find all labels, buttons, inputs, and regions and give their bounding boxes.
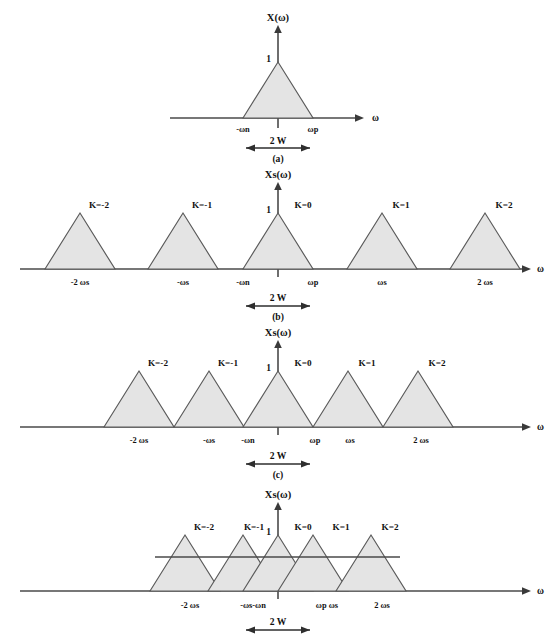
panel-b-horizontal-axis-arrow: [522, 265, 531, 273]
panel-b-k-label-1: K=1: [393, 200, 410, 210]
panel-d-k-label-minus2: K=-2: [194, 522, 214, 532]
panel-b-tick-neg-2ws: -2 ωs: [71, 278, 90, 287]
panel-c-k-label-minus2: K=-2: [148, 358, 168, 368]
panel-b-triangle-k-minus1: [148, 213, 218, 269]
panel-d-vertical-axis-arrow: [274, 502, 282, 510]
panel-d-vertical-axis-label: Xs(ω): [265, 489, 292, 501]
panel-a-triangle-k0: [243, 62, 313, 118]
panel-c-tick-neg-ws: -ωs: [203, 436, 216, 445]
panel-c-triangle-k2: [383, 371, 453, 427]
panel-d-tick-wp-ws: ωp ωs: [316, 601, 339, 610]
panel-a-vertical-axis-label: X(ω): [267, 12, 290, 24]
panel-b-dimension-arrow-right: [301, 302, 310, 309]
panel-c-vertical-axis-label: Xs(ω): [265, 327, 292, 339]
panel-b-k-label-minus2: K=-2: [89, 200, 109, 210]
panel-b-caption: (b): [272, 311, 284, 323]
panel-d-triangle-k-minus2: [150, 535, 220, 591]
panel-d-tick-neg-2ws: -2 ωs: [181, 601, 200, 610]
panel-d-tick-neg-ws-neg-wn: -ωs-ωn: [240, 601, 266, 610]
panel-b-k-label-0: K=0: [295, 200, 312, 210]
panel-c-peak-label: 1: [266, 363, 271, 373]
panel-b-tick-2ws: 2 ωs: [477, 278, 493, 287]
panel-d: Xs(ω) ω 1 K=-2 K=-1 K=0 K=1 K=2 -2 ωs -ω…: [0, 481, 554, 640]
panel-d-horizontal-axis-arrow: [522, 587, 531, 595]
panel-c-tick-wp: ωp: [310, 436, 321, 445]
panel-c-triangle-k0: [243, 371, 313, 427]
panel-b-k-label-2: K=2: [496, 200, 513, 210]
panel-c-horizontal-axis-arrow: [522, 423, 531, 431]
panel-d-dimension-arrow-left: [246, 626, 255, 633]
panel-d-triangle-k2: [336, 535, 406, 591]
panel-b-triangle-k0: [243, 213, 313, 269]
panel-b-vertical-axis-label: Xs(ω): [265, 169, 292, 181]
panel-c-k-label-1: K=1: [359, 358, 376, 368]
panel-c-dimension-arrow-left: [246, 460, 255, 467]
panel-a-dimension-arrow-left: [246, 144, 255, 151]
panel-d-tick-2ws: 2 ωs: [374, 601, 390, 610]
panel-c-tick-neg-2ws: -2 ωs: [130, 436, 149, 445]
panel-d-horizontal-axis-label: ω: [537, 586, 544, 596]
panel-a-horizontal-axis-label: ω: [372, 113, 379, 123]
panel-a: X(ω) ω 1 -ωn ωp 2 W (a): [0, 0, 554, 165]
panel-a-dimension-arrow-right: [301, 144, 310, 151]
panel-c-dimension-label: 2 W: [270, 450, 287, 461]
panel-b-triangle-k1: [347, 213, 417, 269]
panel-d-peak-label: 1: [266, 527, 271, 537]
panel-b-triangle-k-minus2: [45, 213, 115, 269]
panel-d-dimension-label: 2 W: [270, 616, 287, 627]
panel-c-triangle-k-minus2: [104, 371, 174, 427]
panel-a-vertical-axis-arrow: [274, 25, 282, 33]
panel-c: Xs(ω) ω 1 K=-2 K=-1 K=0 K=1 K=2 -2 ωs -ω…: [0, 323, 554, 481]
panel-b: Xs(ω) ω 1 K=-2 K=-1 K=0 K=1 K=2 -2 ωs -ω…: [0, 165, 554, 323]
panel-d-k-label-1: K=1: [333, 522, 350, 532]
panel-c-caption: (c): [273, 469, 284, 481]
panel-c-triangle-k-minus1: [174, 371, 244, 427]
panel-c-vertical-axis-arrow: [274, 340, 282, 348]
panel-b-tick-ws: ωs: [377, 278, 387, 287]
panel-b-tick-wp: ωp: [308, 278, 319, 287]
panel-d-dimension-arrow-right: [301, 626, 310, 633]
panel-b-dimension-label: 2 W: [270, 292, 287, 303]
figure-root: X(ω) ω 1 -ωn ωp 2 W (a) Xs(ω) ω 1 K=-2 K…: [0, 0, 554, 640]
panel-d-k-label-2: K=2: [382, 522, 399, 532]
panel-c-k-label-minus1: K=-1: [218, 358, 238, 368]
panel-b-k-label-minus1: K=-1: [192, 200, 212, 210]
panel-a-tick-neg-wn: -ωn: [236, 125, 250, 134]
panel-a-caption: (a): [272, 153, 283, 165]
panel-d-k-label-0: K=0: [295, 522, 312, 532]
panel-c-k-label-0: K=0: [295, 358, 312, 368]
panel-a-dimension-label: 2 W: [270, 135, 287, 146]
panel-b-tick-neg-ws: -ωs: [177, 278, 190, 287]
panel-c-dimension-arrow-right: [301, 460, 310, 467]
panel-c-horizontal-axis-label: ω: [537, 422, 544, 432]
panel-c-triangle-k1: [313, 371, 383, 427]
panel-a-tick-wp: ωp: [308, 125, 319, 134]
panel-c-tick-2ws: 2 ωs: [413, 436, 429, 445]
panel-b-triangle-k2: [450, 213, 520, 269]
panel-b-vertical-axis-arrow: [274, 182, 282, 190]
panel-c-k-label-2: K=2: [429, 358, 446, 368]
panel-b-peak-label: 1: [266, 205, 271, 215]
panel-c-tick-neg-wn: -ωn: [241, 436, 255, 445]
panel-b-dimension-arrow-left: [246, 302, 255, 309]
panel-a-peak-label: 1: [266, 54, 271, 64]
panel-c-tick-ws: ωs: [345, 436, 355, 445]
panel-b-horizontal-axis-label: ω: [537, 264, 544, 274]
panel-d-k-label-minus1: K=-1: [244, 522, 264, 532]
panel-b-tick-neg-wn: -ωn: [236, 278, 250, 287]
panel-a-horizontal-axis-arrow: [355, 114, 364, 122]
